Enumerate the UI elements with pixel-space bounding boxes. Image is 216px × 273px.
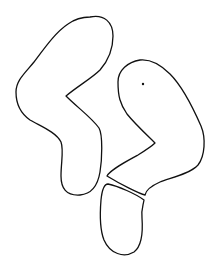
bottom-oval-shape	[100, 184, 144, 255]
right-zigzag-shape	[107, 60, 204, 195]
dot	[142, 83, 144, 85]
line-drawing	[0, 0, 216, 273]
left-zigzag-shape	[16, 16, 113, 195]
